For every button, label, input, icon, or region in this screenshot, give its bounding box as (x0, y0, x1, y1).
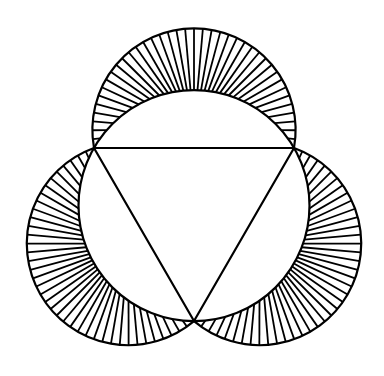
hatch-line (229, 58, 266, 95)
hatch-line (93, 121, 113, 123)
hatch-line (70, 160, 82, 177)
hatch-line (134, 304, 138, 344)
hatch-line (306, 226, 360, 236)
hatch-line (275, 121, 295, 123)
hatch-line (96, 104, 127, 112)
hatch-line (302, 247, 361, 252)
hatch-line (304, 235, 360, 240)
circumscribed-circle (79, 90, 310, 321)
hatch-line (27, 235, 83, 240)
hatch-line (225, 314, 234, 339)
hatch-line (27, 247, 86, 252)
hatch-line (140, 308, 146, 344)
equilateral-triangle (94, 148, 294, 321)
hatch-line (242, 308, 248, 344)
hatch-line (122, 58, 159, 95)
hatch-line (147, 311, 155, 342)
hatch-line (264, 297, 268, 344)
hatch-line (154, 314, 163, 339)
hatch-line (233, 311, 241, 342)
hatch-line (57, 172, 79, 194)
hatch-line (116, 65, 155, 97)
hatch-line (268, 113, 294, 118)
hatch-line (63, 166, 80, 186)
hatch-line (306, 160, 318, 177)
hatch-line (262, 104, 293, 112)
hatching-lines (27, 28, 361, 345)
hatch-line (78, 155, 85, 167)
hatch-line (94, 113, 120, 118)
hatch-line (28, 226, 82, 236)
hatch-line (308, 166, 325, 186)
hatch-line (303, 155, 310, 167)
hatch-line (251, 304, 255, 344)
hatch-line (309, 172, 331, 194)
hatch-line (120, 297, 124, 344)
hatch-line (233, 65, 272, 97)
lune-triangle-diagram (0, 0, 384, 376)
